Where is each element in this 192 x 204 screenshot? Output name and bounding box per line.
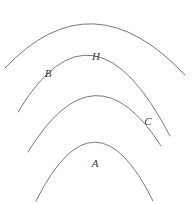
arc-vector-layer — [0, 0, 192, 204]
arc-diagram-canvas: B H C A — [0, 0, 192, 204]
arc-label-c: C — [144, 116, 151, 127]
arc-label-b: B — [45, 68, 52, 79]
innermost-arc — [36, 142, 153, 201]
arc-label-h: H — [92, 51, 100, 62]
third-arc — [28, 95, 161, 152]
arc-label-a: A — [92, 158, 99, 169]
